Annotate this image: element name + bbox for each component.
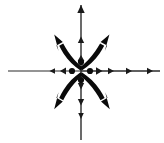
vector-field-figure: Star node vector field diagram [0, 0, 164, 143]
dot-right [87, 68, 93, 74]
dot-down [78, 77, 84, 83]
dot-left [69, 68, 75, 74]
dot-up [78, 59, 84, 65]
vector-field-canvas [0, 0, 164, 143]
